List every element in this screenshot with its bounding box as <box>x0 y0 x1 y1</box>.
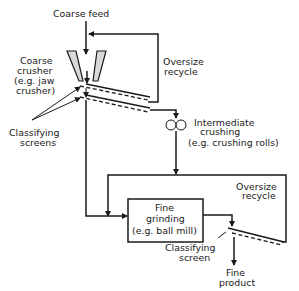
oversize-recycle-1-label: Oversize recycle <box>163 56 204 77</box>
svg-text:screen: screen <box>179 252 210 263</box>
oversize-recycle-2-label: Oversize recycle <box>236 181 277 201</box>
screens-label-pointer-2 <box>32 98 80 120</box>
svg-text:product: product <box>219 277 255 288</box>
svg-text:recycle: recycle <box>242 190 276 201</box>
svg-text:crusher): crusher) <box>16 85 55 96</box>
svg-text:(e.g. crushing rolls): (e.g. crushing rolls) <box>188 137 279 148</box>
svg-text:screens: screens <box>20 137 56 148</box>
coarse-crusher-label: Coarse crusher (e.g. jaw crusher) <box>14 55 55 96</box>
classifying-screen-3 <box>228 228 284 245</box>
to-intermediate-crushing-line <box>150 110 176 118</box>
svg-text:crushing: crushing <box>200 126 240 137</box>
screen-label-pointer <box>218 232 226 238</box>
svg-text:(e.g. ball mill): (e.g. ball mill) <box>132 225 197 236</box>
intermediate-crushing-label: Intermediate crushing (e.g. crushing rol… <box>188 117 279 148</box>
classifying-screen-label: Classifying screen <box>165 242 215 263</box>
coarse-feed-label: Coarse feed <box>53 8 109 19</box>
crushing-rolls-icon <box>166 120 186 130</box>
mill-discharge-line <box>203 215 232 226</box>
classifying-screens-label: Classifying screens <box>9 127 59 148</box>
classifying-screen-2 <box>80 95 150 112</box>
svg-text:Fine: Fine <box>155 202 174 213</box>
svg-text:grinding: grinding <box>146 213 185 224</box>
undersize-to-mill-line <box>86 100 127 216</box>
classifying-screen-1 <box>80 84 150 100</box>
svg-text:recycle: recycle <box>164 66 198 77</box>
fine-product-label: Fine product <box>219 267 255 288</box>
crushing-circuit-diagram: Coarse feed <box>0 0 299 291</box>
